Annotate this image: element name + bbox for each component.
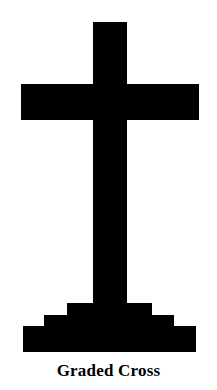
figure-caption: Graded Cross	[0, 360, 217, 382]
graded-cross-figure: Graded Cross	[0, 0, 217, 390]
graded-cross-illustration	[0, 0, 217, 390]
